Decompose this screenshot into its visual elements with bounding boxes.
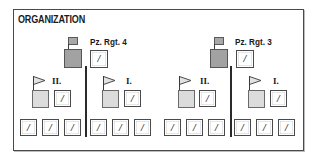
- battalion-pennant-icon: [103, 76, 116, 91]
- company-box: /: [64, 119, 81, 136]
- battalion-label: II.: [52, 76, 61, 86]
- unit-slash-icon: /: [193, 123, 196, 133]
- battalion-label: II.: [200, 76, 209, 86]
- unit-slash-icon: /: [61, 94, 64, 104]
- regiment-divider: [230, 66, 232, 137]
- unit-slash-icon: /: [244, 54, 247, 64]
- battalion-symbol-icon: [32, 90, 49, 108]
- battalion-hq-box: /: [124, 90, 141, 107]
- battalion-pennant-icon: [33, 76, 46, 91]
- company-box: /: [186, 119, 203, 136]
- company-box: /: [164, 119, 181, 136]
- panel-title: ORGANIZATION: [18, 13, 85, 25]
- unit-slash-icon: /: [141, 123, 144, 133]
- unit-slash-icon: /: [215, 123, 218, 133]
- battalion-hq-box: /: [199, 90, 216, 107]
- unit-slash-icon: /: [241, 123, 244, 133]
- unit-slash-icon: /: [263, 123, 266, 133]
- regiment-label: Pz. Rgt. 4: [90, 36, 127, 47]
- company-box: /: [234, 119, 251, 136]
- unit-slash-icon: /: [27, 123, 30, 133]
- battalion-pennant-icon: [179, 76, 192, 91]
- regiment-hq-box: /: [90, 50, 108, 68]
- company-box: /: [278, 119, 295, 136]
- unit-slash-icon: /: [131, 94, 134, 104]
- company-box: /: [90, 119, 107, 136]
- unit-slash-icon: /: [119, 123, 122, 133]
- battalion-symbol-icon: [102, 90, 119, 108]
- unit-slash-icon: /: [71, 123, 74, 133]
- company-box: /: [134, 119, 151, 136]
- regiment-flag-icon: [214, 37, 224, 45]
- battalion-pennant-icon: [249, 76, 262, 91]
- battalion-symbol-icon: [178, 90, 195, 108]
- company-box: /: [256, 119, 273, 136]
- unit-slash-icon: /: [98, 54, 101, 64]
- regiment-flag-icon: [68, 37, 78, 45]
- unit-slash-icon: /: [49, 123, 52, 133]
- battalion-label: I.: [126, 76, 132, 86]
- regiment-divider: [85, 66, 87, 137]
- regiment-label: Pz. Rgt. 3: [235, 36, 272, 47]
- unit-slash-icon: /: [171, 123, 174, 133]
- company-box: /: [112, 119, 129, 136]
- regiment-symbol-icon: [64, 49, 82, 68]
- company-box: /: [208, 119, 225, 136]
- unit-slash-icon: /: [285, 123, 288, 133]
- battalion-symbol-icon: [248, 90, 265, 108]
- battalion-hq-box: /: [270, 90, 287, 107]
- battalion-hq-box: /: [54, 90, 71, 107]
- battalion-label: I.: [273, 76, 279, 86]
- unit-slash-icon: /: [206, 94, 209, 104]
- regiment-symbol-icon: [210, 49, 228, 68]
- unit-slash-icon: /: [97, 123, 100, 133]
- company-box: /: [20, 119, 37, 136]
- unit-slash-icon: /: [277, 94, 280, 104]
- company-box: /: [42, 119, 59, 136]
- regiment-hq-box: /: [236, 50, 254, 68]
